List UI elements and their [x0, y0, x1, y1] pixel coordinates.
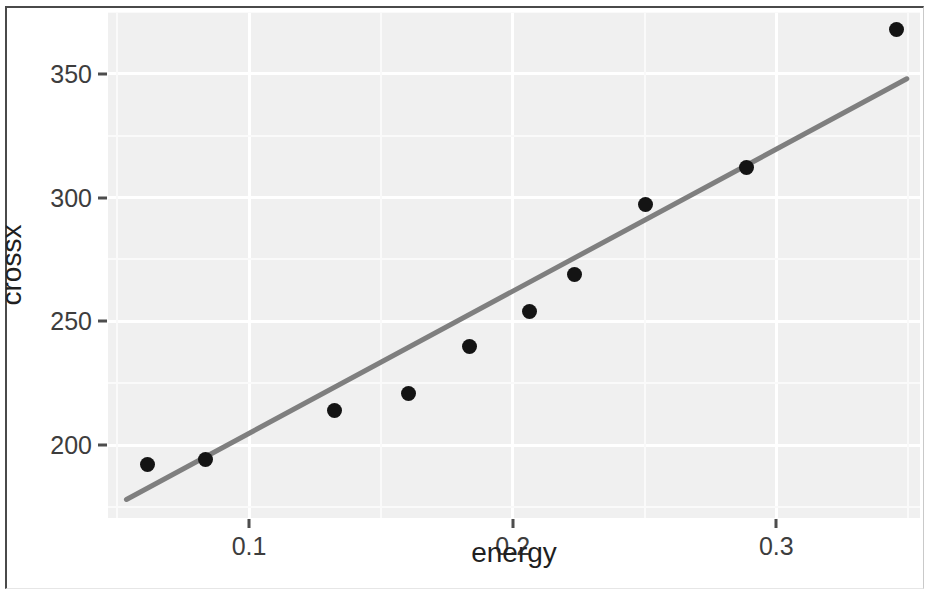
chart-figure: 200250300350 0.10.20.3 crossx energy: [0, 0, 930, 596]
plot-panel: [108, 12, 920, 518]
y-tick-mark: [98, 72, 107, 75]
data-point: [462, 339, 477, 354]
data-point: [327, 403, 342, 418]
x-axis-title: energy: [471, 537, 557, 569]
regression-line: [108, 12, 920, 518]
y-tick-mark: [98, 196, 107, 199]
data-point: [401, 386, 416, 401]
data-point: [739, 160, 754, 175]
x-tick-label: 0.1: [232, 532, 267, 561]
x-tick-mark: [248, 519, 251, 528]
y-tick-label: 300: [50, 183, 92, 212]
y-tick-label: 350: [50, 59, 92, 88]
data-point: [567, 267, 582, 282]
y-tick-label: 200: [50, 431, 92, 460]
y-tick-label: 250: [50, 307, 92, 336]
x-tick-label: 0.3: [759, 532, 794, 561]
y-tick-mark: [98, 320, 107, 323]
y-tick-mark: [98, 444, 107, 447]
y-axis-title: crossx: [0, 225, 28, 306]
data-point: [889, 22, 904, 37]
x-tick-mark: [511, 519, 514, 528]
x-tick-mark: [775, 519, 778, 528]
